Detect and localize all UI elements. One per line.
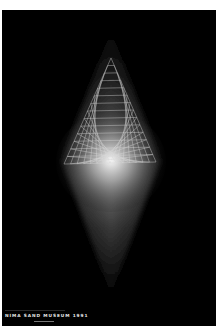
caption-underline — [34, 321, 54, 322]
pyramid-artwork — [2, 10, 216, 326]
caption-rule — [5, 310, 65, 311]
poster-caption: NIMA SAND MUSEUM 1991 — [5, 313, 88, 318]
poster: NIMA SAND MUSEUM 1991 — [2, 10, 216, 326]
